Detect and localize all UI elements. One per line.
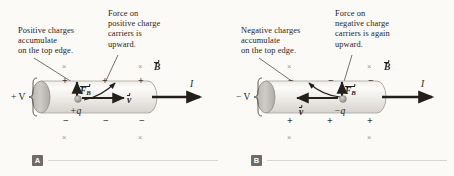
panel-rule-a	[48, 160, 218, 161]
current-label-a: I	[190, 80, 193, 90]
panel-b: Negative charges accumulate on the top e…	[227, 0, 454, 176]
current-arrow-b	[227, 0, 454, 176]
panel-badge-a: A	[32, 155, 43, 166]
hall-effect-figure: Positive charges accumulate on the top e…	[0, 0, 454, 176]
panel-badge-b: B	[251, 155, 262, 166]
panel-rule-b	[267, 160, 447, 161]
current-label-b: I	[421, 80, 424, 90]
panel-a: Positive charges accumulate on the top e…	[0, 0, 227, 176]
